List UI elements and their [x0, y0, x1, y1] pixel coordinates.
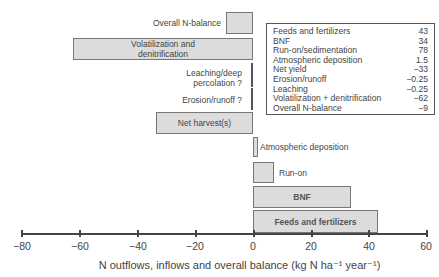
tick [426, 230, 428, 237]
tick-label: 0 [250, 240, 256, 252]
tick [311, 230, 313, 237]
tick [21, 230, 23, 237]
x-axis [21, 233, 427, 235]
bar-run-on [253, 162, 274, 183]
label-overall-n-balance: Overall N-balance [153, 18, 221, 28]
bar-net-harvest: Net harvest(s) [156, 112, 253, 134]
label-erosion: Erosion/runoff ? [182, 95, 242, 105]
tick [368, 230, 370, 237]
legend-row: Overall N-balance−9 [273, 104, 428, 114]
label-bnf: BNF [293, 192, 310, 202]
tick [79, 230, 81, 237]
tick [195, 230, 197, 237]
bar-volatilization: Volatilization and denitrification [73, 38, 253, 60]
label-volatilization-1: Volatilization and [131, 39, 195, 49]
tick [137, 230, 139, 237]
label-atmospheric-deposition: Atmospheric deposition [260, 142, 348, 152]
bar-overall-n-balance [226, 12, 253, 34]
bar-leaching [251, 63, 253, 87]
tick-label: 20 [305, 240, 317, 252]
tick-label: −80 [13, 240, 31, 252]
label-feeds-fertilizers: Feeds and fertilizers [274, 217, 356, 227]
bar-bnf: BNF [253, 186, 351, 208]
legend-table: Feeds and fertilizers43 BNF34 Run-on/sed… [266, 23, 435, 115]
label-net-harvest: Net harvest(s) [178, 118, 231, 128]
legend-row: Feeds and fertilizers43 [273, 27, 428, 37]
bar-feeds-fertilizers: Feeds and fertilizers [253, 210, 378, 233]
tick-label: −20 [186, 240, 204, 252]
tick-label: −40 [129, 240, 147, 252]
label-volatilization-2: denitrification [138, 49, 188, 59]
tick-label: −60 [71, 240, 89, 252]
tick [253, 230, 255, 237]
tick-label: 60 [420, 240, 432, 252]
x-axis-title: N outflows, inflows and overall balance … [0, 259, 439, 272]
bar-atmospheric-deposition [253, 137, 258, 157]
label-leaching-1: Leaching/deep [186, 68, 242, 78]
legend-value: −9 [418, 104, 428, 114]
label-run-on: Run-on [279, 168, 307, 178]
bar-erosion [251, 88, 253, 110]
tick-label: 40 [363, 240, 375, 252]
legend-label: Overall N-balance [273, 104, 342, 114]
label-leaching-2: percolation ? [193, 78, 242, 88]
